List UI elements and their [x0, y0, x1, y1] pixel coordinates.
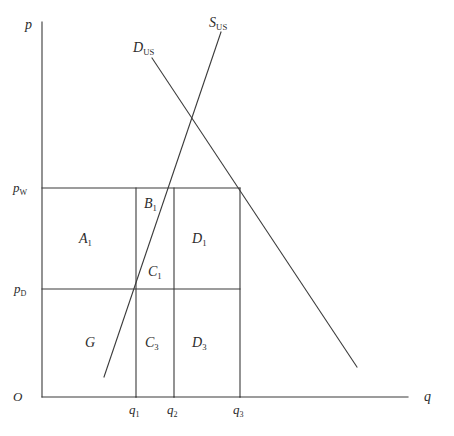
quantity-tick-q1-sub: 1: [136, 410, 140, 419]
quantity-tick-q3: q3: [233, 403, 244, 416]
region-label-c3: C3: [145, 336, 159, 350]
demand-curve-label: DUS: [133, 41, 155, 55]
demand-curve-label-base: D: [133, 40, 143, 55]
supply-curve-label-sub: US: [216, 22, 228, 32]
region-label-c1: C1: [148, 265, 162, 279]
quantity-axis-label-text: q: [424, 389, 431, 404]
region-label-a1: A1: [79, 232, 92, 246]
quantity-tick-q2-sub: 2: [174, 410, 178, 419]
region-label-d3: D3: [192, 336, 207, 350]
price-tick-pw: pW: [13, 181, 27, 194]
region-label-g: G: [85, 336, 95, 350]
quantity-axis-label: q: [424, 390, 431, 404]
quantity-tick-q2-base: q: [167, 402, 174, 417]
region-label-b1-sub: 1: [153, 203, 158, 213]
region-label-d1: D1: [192, 232, 207, 246]
supply-curve-us: [104, 32, 221, 377]
price-tick-pd-base: p: [14, 281, 21, 296]
region-label-a1-base: A: [79, 231, 88, 246]
price-axis-label: p: [25, 18, 32, 32]
quantity-tick-q3-base: q: [233, 402, 240, 417]
region-label-d3-base: D: [192, 335, 202, 350]
region-label-d1-sub: 1: [202, 238, 207, 248]
diagram-canvas: [0, 0, 454, 436]
quantity-tick-q3-sub: 3: [240, 410, 244, 419]
price-tick-pd-sub: D: [21, 289, 27, 298]
price-tick-pw-sub: W: [20, 188, 28, 197]
origin-label: O: [13, 390, 22, 403]
quantity-tick-q1-base: q: [129, 402, 136, 417]
region-label-d1-base: D: [192, 231, 202, 246]
region-label-g-base: G: [85, 335, 95, 350]
region-label-c1-sub: 1: [157, 271, 162, 281]
demand-curve-label-sub: US: [143, 47, 155, 57]
region-label-b1-base: B: [144, 196, 153, 211]
region-label-b1: B1: [144, 197, 157, 211]
region-label-c1-base: C: [148, 264, 157, 279]
price-tick-pw-base: p: [13, 180, 20, 195]
region-label-d3-sub: 3: [202, 342, 207, 352]
region-label-c3-base: C: [145, 335, 154, 350]
price-axis-label-text: p: [25, 17, 32, 32]
quantity-tick-q2: q2: [167, 403, 178, 416]
supply-curve-label-base: S: [209, 15, 216, 30]
supply-curve-label: SUS: [209, 16, 228, 30]
quantity-tick-q1: q1: [129, 403, 140, 416]
region-label-a1-sub: 1: [88, 238, 93, 248]
origin-label-text: O: [13, 389, 22, 404]
welfare-diagram: p q O pW pD q1 q2 q3 DUS SUS A1 B1 C1 D1: [0, 0, 454, 436]
demand-curve-us: [152, 58, 357, 367]
price-tick-pd: pD: [14, 282, 27, 295]
region-label-c3-sub: 3: [154, 342, 159, 352]
